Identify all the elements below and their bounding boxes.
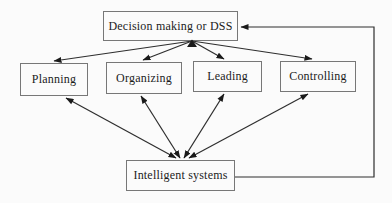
node-planning: Planning	[20, 63, 88, 96]
node-organizing: Organizing	[106, 62, 182, 94]
diagram-canvas: Decision making or DSS Planning Organizi…	[0, 0, 392, 203]
edge-dss-leading	[192, 41, 224, 59]
node-decision-dss: Decision making or DSS	[103, 11, 238, 41]
node-controlling: Controlling	[280, 61, 356, 92]
node-decision-dss-label: Decision making or DSS	[108, 19, 232, 34]
edge-leading-intelligent	[184, 94, 224, 158]
node-leading-label: Leading	[207, 69, 248, 84]
edge-organizing-intelligent	[141, 96, 180, 158]
node-intelligent-systems: Intelligent systems	[126, 160, 235, 191]
node-leading: Leading	[193, 61, 262, 92]
edge-dss-controlling	[192, 41, 312, 59]
node-organizing-label: Organizing	[116, 71, 172, 86]
node-planning-label: Planning	[32, 72, 76, 87]
edge-dss-organizing	[143, 41, 192, 60]
edge-dss-planning	[54, 41, 192, 61]
edge-planning-intelligent	[66, 98, 176, 158]
node-controlling-label: Controlling	[289, 69, 347, 84]
edge-controlling-intelligent	[189, 94, 308, 158]
node-intelligent-systems-label: Intelligent systems	[133, 168, 227, 183]
edge-intelligent-dss-feedback	[235, 27, 374, 177]
